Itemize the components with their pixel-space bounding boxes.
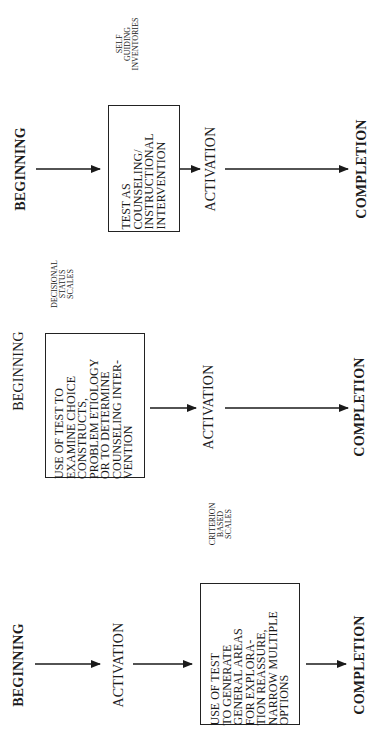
- side-label-wrap: DECISIONAL STATUS SCALES: [48, 260, 78, 308]
- side-label: DECISIONAL STATUS SCALES: [48, 260, 78, 308]
- box-text: TEST AS COUNSELING/ INSTRUCTIONAL INTERV…: [121, 134, 167, 230]
- step-beginning: BEGINNING: [11, 621, 29, 709]
- process-box: USE OF TEST TO EXAMINE CHOICE CONSTRUCTS…: [45, 333, 145, 478]
- side-label: SELF GUIDING INVENTORIES: [110, 22, 146, 66]
- step-beginning: BEGINNING: [11, 327, 29, 415]
- box-text: USE OF TEST TO EXAMINE CHOICE CONSTRUCTS…: [54, 359, 135, 479]
- box-text: USE OF TEST TO GENERATE GENERAL AREAS FO…: [210, 611, 291, 725]
- step-completion: COMPLETION: [354, 119, 372, 219]
- side-label: CRITERION BASED SCALES: [205, 500, 237, 548]
- side-label-wrap: CRITERION BASED SCALES: [205, 500, 237, 548]
- side-label-wrap: SELF GUIDING INVENTORIES: [108, 26, 148, 62]
- step-activation: ACTIVATION: [111, 621, 129, 709]
- step-beginning: BEGINNING: [13, 125, 31, 213]
- step-completion: COMPLETION: [352, 357, 370, 457]
- step-completion: COMPLETION: [352, 615, 370, 715]
- process-box: TEST AS COUNSELING/ INSTRUCTIONAL INTERV…: [108, 105, 180, 232]
- process-box: USE OF TEST TO GENERATE GENERAL AREAS FO…: [200, 583, 300, 725]
- step-activation: ACTIVATION: [201, 363, 219, 451]
- step-activation: ACTIVATION: [203, 125, 221, 213]
